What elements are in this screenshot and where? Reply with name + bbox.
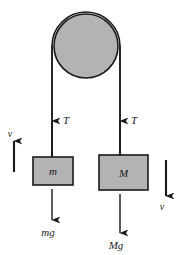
tension-label-right: T	[131, 114, 138, 126]
pulley-wheel	[54, 14, 118, 78]
figure-canvas: T T m M mg Mg v	[0, 0, 178, 255]
block-small-m: m	[33, 157, 73, 185]
velocity-label-left: v	[8, 128, 13, 139]
block-large-M: M	[99, 155, 148, 190]
block-large-label: M	[118, 167, 129, 179]
block-small-label: m	[49, 165, 57, 177]
weight-label-right: Mg	[108, 239, 124, 251]
weight-label-left: mg	[41, 226, 55, 238]
physics-figure-atwood-machine: T T m M mg Mg v	[0, 0, 178, 255]
tension-label-left: T	[63, 114, 70, 126]
velocity-label-right: v	[160, 201, 165, 212]
